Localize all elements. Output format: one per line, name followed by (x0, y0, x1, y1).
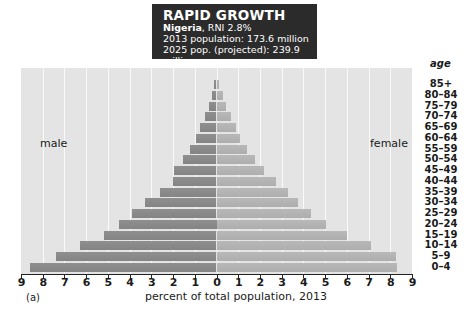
male-label: male (40, 137, 67, 150)
age-label: 55–59 (416, 143, 466, 154)
bar-female (217, 263, 397, 272)
bar-male (174, 166, 216, 175)
bar-female (217, 112, 232, 121)
bar-female (217, 231, 348, 240)
bar-male (104, 231, 217, 240)
bar-male (145, 198, 217, 207)
bar-female (217, 134, 241, 143)
bar-male (209, 102, 217, 111)
bar-female (217, 188, 288, 197)
bar-female (217, 220, 327, 229)
x-tick-label: 3 (274, 276, 290, 289)
bar-female (217, 166, 264, 175)
bar-male (56, 252, 217, 261)
x-tick-label: 9 (14, 276, 30, 289)
female-label: female (370, 137, 408, 150)
bar-male (119, 220, 217, 229)
age-label: 60–64 (416, 132, 466, 143)
bar-male (200, 123, 216, 132)
gridline (390, 68, 391, 274)
age-label: 25–29 (416, 207, 466, 218)
plot-area (21, 68, 412, 274)
bar-female (217, 198, 298, 207)
bar-male (173, 177, 216, 186)
bar-female (217, 209, 311, 218)
x-tick-label: 9 (405, 276, 421, 289)
chart-title: RAPID GROWTH (163, 8, 317, 22)
bar-male (30, 263, 217, 272)
x-tick-label: 4 (122, 276, 138, 289)
panel-label: (a) (26, 292, 40, 303)
bar-male (183, 155, 217, 164)
bar-female (217, 155, 255, 164)
rni-value: , RNI 2.8% (202, 22, 252, 33)
bar-female (217, 252, 396, 261)
x-tick-label: 2 (252, 276, 268, 289)
population-2013: 2013 population: 173.6 million (163, 33, 317, 44)
x-tick-label: 8 (383, 276, 399, 289)
age-label: 70–74 (416, 110, 466, 121)
title-box: RAPID GROWTH Nigeria, RNI 2.8% 2013 popu… (152, 4, 317, 59)
bar-female (217, 102, 227, 111)
x-axis-label: percent of total population, 2013 (145, 290, 327, 303)
x-tick-label: 2 (166, 276, 182, 289)
age-label: 50–54 (416, 153, 466, 164)
age-label: 15–19 (416, 229, 466, 240)
bar-male (190, 145, 216, 154)
x-tick-label: 7 (57, 276, 73, 289)
gridline (64, 68, 65, 274)
x-tick-label: 5 (318, 276, 334, 289)
bar-female (217, 177, 276, 186)
bar-female (217, 80, 220, 89)
age-label: 10–14 (416, 239, 466, 250)
x-tick-label: 3 (144, 276, 160, 289)
bar-female (217, 123, 237, 132)
age-axis-title: age (430, 58, 451, 69)
bar-male (205, 112, 217, 121)
age-label: 80–84 (416, 89, 466, 100)
age-label: 5–9 (416, 250, 466, 261)
country-line: Nigeria, RNI 2.8% (163, 22, 317, 33)
age-label: 65–69 (416, 121, 466, 132)
x-tick-label: 7 (361, 276, 377, 289)
x-tick-label: 6 (79, 276, 95, 289)
age-label: 30–34 (416, 196, 466, 207)
bar-female (217, 145, 248, 154)
x-tick-label: 1 (187, 276, 203, 289)
bar-male (160, 188, 216, 197)
age-label: 75–79 (416, 100, 466, 111)
gridline (43, 68, 44, 274)
age-label: 45–49 (416, 164, 466, 175)
x-tick-label: 5 (100, 276, 116, 289)
population-2025: 2025 pop. (projected): 239.9 million (163, 44, 317, 66)
x-tick-label: 4 (296, 276, 312, 289)
age-label: 40–44 (416, 175, 466, 186)
bar-male (80, 241, 217, 250)
age-label: 20–24 (416, 218, 466, 229)
bar-male (196, 134, 217, 143)
x-tick-label: 0 (209, 276, 225, 289)
age-label: 35–39 (416, 186, 466, 197)
bar-female (217, 241, 371, 250)
bar-male (132, 209, 217, 218)
country-name: Nigeria (163, 22, 202, 33)
age-label: 85+ (416, 78, 466, 89)
bar-female (217, 91, 223, 100)
x-tick-label: 6 (339, 276, 355, 289)
x-tick-label: 1 (231, 276, 247, 289)
age-label: 0–4 (416, 261, 466, 272)
x-tick-label: 8 (35, 276, 51, 289)
